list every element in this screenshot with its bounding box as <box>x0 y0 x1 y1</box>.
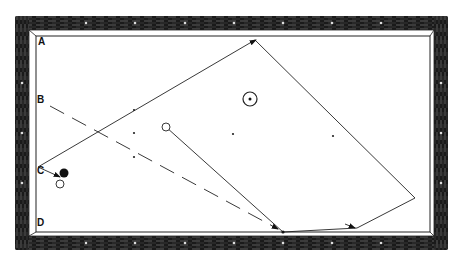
target-ball-center-dot <box>249 98 252 101</box>
white-ball-near-c <box>56 180 64 188</box>
black-ball <box>60 169 69 178</box>
rail-contact-dot <box>281 230 284 233</box>
label-c: C <box>37 166 44 176</box>
label-d: D <box>37 218 44 228</box>
label-a: A <box>38 37 45 47</box>
cue-ball <box>162 123 170 131</box>
billiard-diagram <box>0 0 463 264</box>
label-b: B <box>37 95 44 105</box>
